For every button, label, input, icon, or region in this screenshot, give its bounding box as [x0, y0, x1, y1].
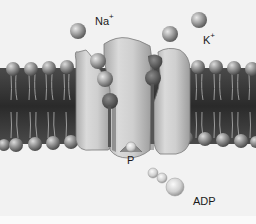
- phosphate-label-text: P: [127, 154, 134, 166]
- adp-label-text: ADP: [193, 195, 216, 207]
- sodium-ion-extracellular: [70, 23, 86, 39]
- sodium-label: Na+: [95, 14, 114, 27]
- pump-illustration: [0, 0, 256, 224]
- adp-label: ADP: [193, 196, 216, 207]
- potassium-ion-1: [162, 26, 178, 42]
- potassium-label: K+: [203, 33, 215, 46]
- potassium-ion-2: [191, 12, 207, 28]
- sodium-charge: +: [109, 12, 114, 21]
- phosphate-group: [126, 142, 136, 152]
- phosphate-label: P: [127, 155, 134, 166]
- potassium-charge: +: [210, 31, 215, 40]
- diagram-stage: Na+ K+ P ADP: [0, 0, 256, 224]
- sodium-label-text: Na: [95, 15, 109, 27]
